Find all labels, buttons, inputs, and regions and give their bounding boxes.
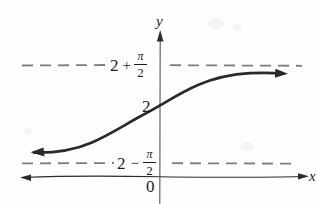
curve-left-arrowhead xyxy=(31,148,45,157)
upper-asymptote-operator: + xyxy=(123,57,131,74)
upper-asymptote-fraction: π 2 xyxy=(134,50,147,79)
upper-asymptote-numerator: π xyxy=(135,50,145,64)
y-axis-label: y xyxy=(156,14,163,29)
y-intercept-label: 2 xyxy=(142,98,151,115)
lower-asymptote-operator: − xyxy=(131,155,139,172)
origin-label: 0 xyxy=(146,178,155,195)
y-axis xyxy=(157,30,164,204)
lower-asymptote-fraction: π 2 xyxy=(143,148,156,177)
upper-asymptote-line xyxy=(22,65,302,66)
lower-asymptote-numerator: π xyxy=(144,148,154,162)
upper-asymptote-denominator: 2 xyxy=(137,65,144,80)
graph-canvas xyxy=(0,0,317,204)
x-axis-label: x xyxy=(309,169,316,184)
upper-asymptote-integer: 2 xyxy=(110,56,119,76)
lower-asymptote-integer: 2 xyxy=(117,154,126,174)
lower-asymptote-label: 2 − π 2 xyxy=(117,149,156,178)
function-graph-figure: y x 0 2 2 + π 2 2 − π 2 xyxy=(0,0,317,204)
lower-asymptote-line xyxy=(22,163,292,164)
lower-asymptote-denominator: 2 xyxy=(146,163,153,178)
curve-right-arrowhead xyxy=(275,69,288,78)
x-axis xyxy=(20,173,309,181)
y-axis-up-arrowhead xyxy=(157,30,164,42)
x-axis-right-arrowhead xyxy=(298,173,309,179)
x-axis-left-arrowhead xyxy=(20,174,31,181)
upper-asymptote-label: 2 + π 2 xyxy=(110,51,147,80)
arctan-curve xyxy=(31,69,289,157)
